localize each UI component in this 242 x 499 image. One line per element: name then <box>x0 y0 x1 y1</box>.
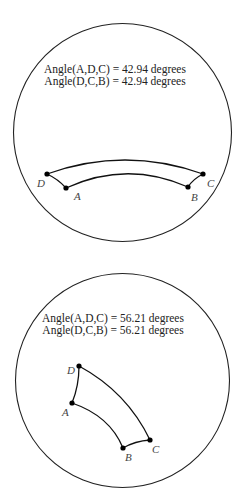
label-c-top: C <box>207 177 215 189</box>
label-b-top: B <box>191 191 198 203</box>
edge-da-top <box>47 174 66 188</box>
label-b-bottom: B <box>125 451 132 463</box>
poincare-disk-bottom <box>16 274 230 488</box>
label-d-bottom: D <box>66 364 75 376</box>
edge-ab-top <box>66 174 188 188</box>
label-a-top: A <box>73 190 81 202</box>
hyperbolic-quadrilaterals-figure: Angle(A,D,C) = 42.94 degrees Angle(D,C,B… <box>0 0 242 499</box>
poincare-disk-top <box>14 24 232 242</box>
vertex-c-bottom <box>147 437 152 442</box>
vertex-a-bottom <box>69 400 74 405</box>
edge-ab-bottom <box>72 403 123 448</box>
vertex-a-top <box>63 185 68 190</box>
vertex-d-bottom <box>76 363 81 368</box>
edge-dc-bottom <box>79 366 150 440</box>
label-d-top: D <box>36 177 45 189</box>
edge-cb-top <box>188 174 203 187</box>
angle-dcb-caption-top: Angle(D,C,B) = 42.94 degrees <box>44 75 186 88</box>
edge-bc-bottom <box>123 440 150 448</box>
vertex-d-top <box>44 171 49 176</box>
panel-top: Angle(A,D,C) = 42.94 degrees Angle(D,C,B… <box>14 24 232 242</box>
angle-dcb-caption-bottom: Angle(D,C,B) = 56.21 degrees <box>42 324 184 337</box>
label-a-bottom: A <box>61 406 69 418</box>
vertex-c-top <box>200 171 205 176</box>
label-c-bottom: C <box>152 443 160 455</box>
vertex-b-top <box>185 184 190 189</box>
edge-dc-top <box>47 160 203 174</box>
panel-bottom: Angle(A,D,C) = 56.21 degrees Angle(D,C,B… <box>16 274 230 488</box>
vertex-b-bottom <box>120 445 125 450</box>
